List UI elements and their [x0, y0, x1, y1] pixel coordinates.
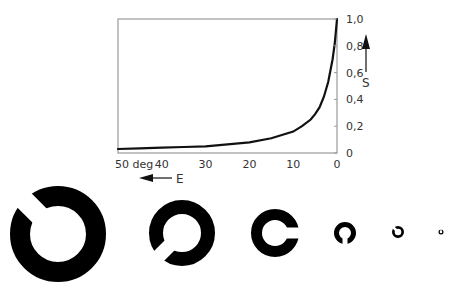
x-tick-label: 40	[155, 158, 169, 171]
y-tick-label: 0,6	[346, 67, 364, 80]
y-tick-label: 0,2	[346, 120, 364, 133]
x-axis-label-group: E	[139, 172, 184, 186]
plot-frame	[118, 19, 337, 153]
x-tick-label: 0	[334, 158, 341, 171]
landolt-ring	[391, 225, 402, 236]
acuity-chart: 50 deg403020100 00,20,40,60,81,0 E S	[0, 0, 453, 288]
landolt-ring	[439, 228, 443, 234]
x-axis-label: E	[176, 172, 184, 186]
y-tick-label: 0,8	[346, 40, 364, 53]
x-tick-label: 20	[242, 158, 256, 171]
data-curve	[118, 19, 337, 149]
landolt-ring	[337, 225, 354, 247]
y-axis-ticks: 00,20,40,60,81,0	[334, 13, 364, 160]
y-tick-label: 1,0	[346, 13, 364, 26]
x-axis-ticks: 50 deg403020100	[115, 158, 341, 171]
y-tick-label: 0,4	[346, 93, 364, 106]
arrow-left-icon	[139, 174, 153, 182]
landolt-rings	[16, 192, 443, 272]
y-axis-label: S	[362, 76, 370, 90]
landolt-ring	[152, 207, 208, 263]
x-tick-label: 10	[286, 158, 300, 171]
y-tick-label: 0	[346, 147, 353, 160]
x-tick-label: 50 deg	[115, 158, 153, 171]
landolt-ring	[16, 192, 96, 272]
x-tick-label: 30	[199, 158, 213, 171]
landolt-ring	[257, 215, 302, 252]
